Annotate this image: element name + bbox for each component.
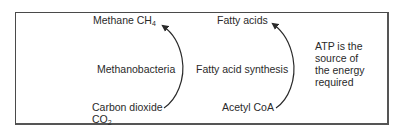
co2-text: CO <box>92 113 108 125</box>
fatty-acids-label: Fatty acids <box>217 14 268 26</box>
methane-subscript: 4 <box>152 20 156 27</box>
methane-label: Methane CH4 <box>93 14 156 26</box>
co2-subscript: 2 <box>108 119 112 126</box>
note-line-1: ATP is the <box>315 40 362 52</box>
note-line-4: required <box>315 76 354 88</box>
co2-label: CO2 <box>92 113 112 125</box>
carbon-dioxide-label: Carbon dioxide <box>92 101 163 113</box>
note-line-3: the energy <box>315 64 365 76</box>
fatty-acid-synthesis-label: Fatty acid synthesis <box>196 63 288 75</box>
note-line-2: source of <box>315 52 358 64</box>
methanobacteria-label: Methanobacteria <box>97 63 175 75</box>
methane-text: Methane CH <box>93 14 152 26</box>
acetyl-coa-label: Acetyl CoA <box>222 101 274 113</box>
